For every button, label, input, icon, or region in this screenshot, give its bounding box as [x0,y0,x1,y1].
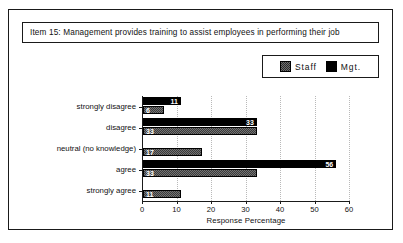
y-axis-category-label: strongly disagree [77,102,136,111]
chart-category-row: agree5633 [142,159,349,180]
bar-staff: 33 [143,169,257,177]
bar-mgt: 11 [143,97,181,105]
bar-staff: 11 [143,190,181,198]
bar-mgt: 33 [143,118,257,126]
x-axis-tick [315,201,316,204]
bar-value-label: 33 [246,119,254,127]
legend-item-staff: Staff [280,61,317,72]
x-axis-tick [177,201,178,204]
y-axis-tick [139,191,142,192]
x-axis-tick [280,201,281,204]
x-axis-title: Response Percentage [142,216,350,225]
x-axis-tick-label: 30 [241,205,249,214]
y-axis-category-label: neutral (no knowledge) [57,144,136,153]
chart-frame: Item 15: Management provides training to… [8,9,393,230]
chart-category-row: strongly agree11 [142,180,349,201]
bar-staff: 6 [143,106,164,114]
gridline [349,96,350,201]
chart-category-row: neutral (no knowledge)17 [142,138,349,159]
chart-category-row: disagree3333 [142,117,349,138]
x-axis-tick [211,201,212,204]
x-axis-tick-label: 20 [207,205,215,214]
x-axis-tick [349,201,350,204]
legend-swatch-staff-icon [280,61,291,72]
x-axis-tick [142,201,143,204]
x-axis-tick [246,201,247,204]
y-axis-tick [139,128,142,129]
chart-legend: Staff Mgt. [262,55,379,78]
bar-value-label: 11 [171,98,178,106]
plot-area: strongly disagree116disagree3333neutral … [142,96,349,201]
bar-mgt: 56 [143,160,336,168]
bar-value-label: 17 [146,149,154,157]
page-title: Item 15: Management provides training to… [23,28,340,37]
y-axis-tick [139,107,142,108]
y-axis-tick [139,170,142,171]
y-axis-category-label: strongly agree [87,186,136,195]
x-axis-tick-label: 10 [172,205,180,214]
x-axis-tick-label: 40 [276,205,284,214]
bar-staff: 17 [143,148,202,156]
x-axis-tick-label: 50 [310,205,318,214]
bar-value-label: 33 [146,170,154,178]
x-axis-tick-label: 0 [140,205,144,214]
legend-swatch-mgt-icon [326,61,337,72]
bar-staff: 33 [143,127,257,135]
legend-item-mgt: Mgt. [326,61,361,72]
bar-value-label: 33 [146,128,154,136]
x-axis-tick-label: 60 [345,205,353,214]
y-axis-tick [139,149,142,150]
y-axis-category-label: disagree [106,123,136,132]
chart-title-box: Item 15: Management provides training to… [22,22,379,43]
legend-label-staff: Staff [295,62,317,72]
legend-label-mgt: Mgt. [341,62,361,72]
bar-value-label: 6 [146,107,150,115]
y-axis-category-label: agree [116,165,136,174]
chart-category-row: strongly disagree116 [142,96,349,117]
bar-value-label: 56 [325,161,333,169]
bar-value-label: 11 [146,191,153,199]
